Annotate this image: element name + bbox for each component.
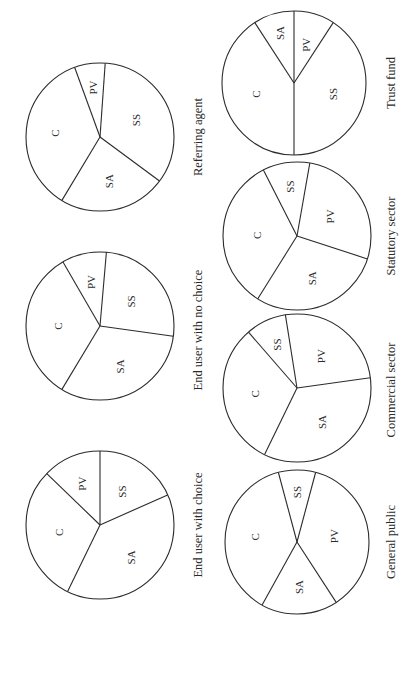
slice-label-ss: SS (116, 485, 128, 497)
pie-end-user-with-choice: PVSSSACEnd user with choice (26, 451, 205, 599)
pie-caption: General public (384, 505, 398, 579)
slice-label-c: C (53, 529, 65, 536)
pie-general-public: SSPVSACGeneral public (225, 470, 398, 614)
slice-label-c: C (249, 533, 261, 540)
pie-caption: Trust fund (384, 56, 398, 109)
pie-end-user-with-no-choice: PVSSSACEnd user with no choice (26, 252, 205, 400)
slice-label-pv: PV (315, 349, 327, 363)
slice-label-ss: SS (327, 88, 339, 100)
slice-label-sa: SA (274, 26, 286, 40)
slice-label-pv: PV (300, 38, 312, 52)
slice-label-sa: SA (125, 550, 137, 564)
slice-label-sa: SA (114, 359, 126, 373)
slice-label-pv: PV (324, 209, 336, 223)
slice-label-c: C (250, 90, 262, 97)
pie-referring-agent: PVSSSACReferring agent (26, 63, 205, 211)
pie-chart-figure: PVSSSACReferring agentPVSSSACEnd user wi… (0, 0, 409, 693)
slice-label-c: C (249, 390, 261, 397)
slice-label-pv: PV (329, 529, 341, 543)
pie-caption: Statutory sector (384, 196, 398, 276)
pie-caption: Referring agent (191, 97, 205, 176)
pie-caption: Commercial sector (384, 342, 398, 438)
pie-commercial-sector: SSPVSACCommercial sector (223, 314, 398, 462)
slice-label-pv: PV (76, 477, 88, 491)
slice-label-sa: SA (103, 174, 115, 188)
slice-label-sa: SA (293, 580, 305, 594)
pie-statutory-sector: SSPVSACStatutory sector (223, 162, 398, 310)
slice-label-ss: SS (291, 486, 303, 498)
slice-label-sa: SA (306, 271, 318, 285)
slice-label-ss: SS (126, 295, 138, 307)
slice-label-ss: SS (271, 338, 283, 350)
slice-label-pv: PV (85, 275, 97, 289)
slice-label-ss: SS (284, 180, 296, 192)
slice-label-ss: SS (130, 114, 142, 126)
slice-label-pv: PV (87, 80, 99, 94)
slice-label-c: C (49, 129, 61, 136)
slice-label-sa: SA (316, 415, 328, 429)
pie-trust-fund: SAPVSSCTrust fund (222, 11, 398, 155)
pie-caption: End user with no choice (191, 269, 205, 390)
slice-label-c: C (251, 232, 263, 239)
pie-caption: End user with choice (191, 472, 205, 578)
slice-label-c: C (52, 322, 64, 329)
